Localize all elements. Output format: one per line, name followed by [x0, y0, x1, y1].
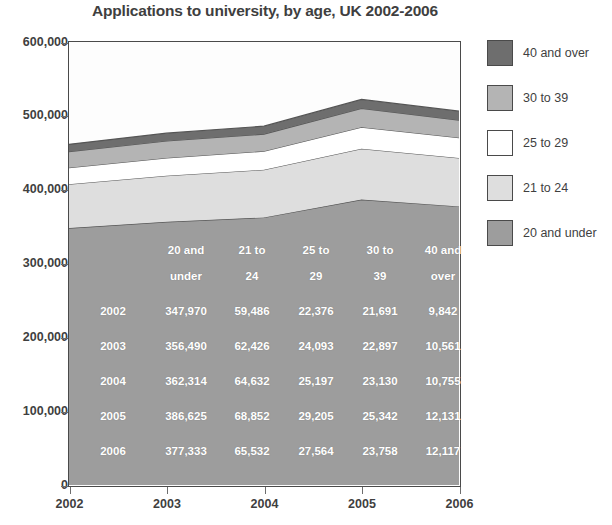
- y-tick-mark: [61, 412, 68, 413]
- x-tick-mark: [265, 487, 266, 494]
- chart-title: Applications to university, by age, UK 2…: [60, 2, 470, 20]
- y-tick-label: 0: [10, 478, 68, 492]
- y-tick-label: 100,000: [10, 404, 68, 418]
- y-tick-mark: [61, 43, 68, 44]
- legend-swatch: [487, 175, 513, 201]
- legend-item[interactable]: 20 and under: [487, 220, 612, 246]
- y-axis: 0100,000200,000300,000400,000500,000600,…: [0, 0, 68, 525]
- y-tick-label: 400,000: [10, 182, 68, 196]
- y-tick-label: 500,000: [10, 108, 68, 122]
- legend-label: 40 and over: [523, 46, 589, 60]
- y-tick-mark: [61, 264, 68, 265]
- x-tick-label: 2005: [327, 497, 397, 511]
- table-cell: 12,117: [398, 445, 488, 457]
- legend-item[interactable]: 30 to 39: [487, 85, 612, 111]
- table-column-header-line: 40 and: [398, 245, 488, 257]
- legend-swatch: [487, 40, 513, 66]
- table-cell: 10,561: [398, 340, 488, 352]
- x-tick-mark: [167, 487, 168, 494]
- legend-swatch: [487, 85, 513, 111]
- table-column-header-line: over: [398, 271, 488, 283]
- table-cell: 12,131: [398, 410, 488, 422]
- y-tick-label: 600,000: [10, 35, 68, 49]
- embedded-data-table: 20 andunder21 to2425 to2930 to3940 andov…: [68, 243, 461, 483]
- legend-label: 25 to 29: [523, 136, 568, 150]
- x-tick-mark: [70, 487, 71, 494]
- y-tick-mark: [61, 338, 68, 339]
- x-tick-label: 2004: [230, 497, 300, 511]
- chart-legend: 40 and over30 to 3925 to 2921 to 2420 an…: [487, 40, 612, 240]
- y-tick-mark: [61, 116, 68, 117]
- legend-item[interactable]: 21 to 24: [487, 175, 612, 201]
- x-tick-label: 2006: [425, 497, 495, 511]
- x-tick-label: 2003: [132, 497, 202, 511]
- x-tick-label: 2002: [35, 497, 105, 511]
- table-cell: 9,842: [398, 305, 488, 317]
- table-column-header: 40 andover: [398, 245, 488, 282]
- y-tick-label: 200,000: [10, 330, 68, 344]
- legend-swatch: [487, 220, 513, 246]
- legend-label: 20 and under: [523, 226, 597, 240]
- legend-swatch: [487, 130, 513, 156]
- x-tick-mark: [460, 487, 461, 494]
- y-tick-label: 300,000: [10, 256, 68, 270]
- table-cell: 10,755: [398, 375, 488, 387]
- chart-container: Applications to university, by age, UK 2…: [0, 0, 612, 525]
- y-tick-mark: [61, 486, 68, 487]
- legend-label: 21 to 24: [523, 181, 568, 195]
- y-tick-mark: [61, 190, 68, 191]
- legend-item[interactable]: 25 to 29: [487, 130, 612, 156]
- x-tick-mark: [362, 487, 363, 494]
- legend-label: 30 to 39: [523, 91, 568, 105]
- legend-item[interactable]: 40 and over: [487, 40, 612, 66]
